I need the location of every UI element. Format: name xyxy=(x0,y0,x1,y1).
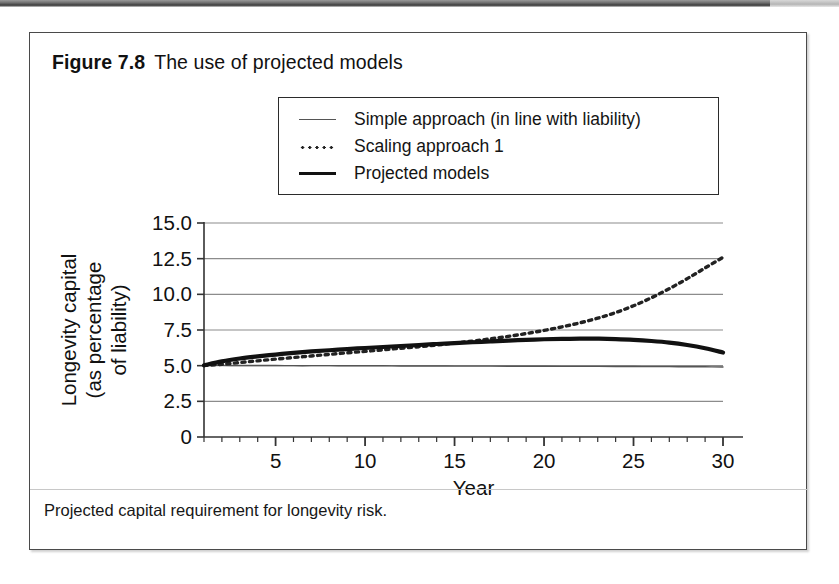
x-axis-tick-label: 10 xyxy=(354,449,377,472)
line-chart: 02.55.07.510.012.515.0 51015202530 YearL… xyxy=(30,33,808,551)
y-axis-tick-label: 12.5 xyxy=(152,247,192,270)
y-axis-title-line: (as percentage xyxy=(82,262,105,399)
scan-artifact-bar xyxy=(0,0,839,7)
data-series-layer xyxy=(204,257,723,367)
series-line-scaling-approach xyxy=(204,257,723,365)
figure-caption: Projected capital requirement for longev… xyxy=(44,501,387,520)
x-axis-tick-label: 25 xyxy=(622,449,645,472)
x-axis-tick-label: 30 xyxy=(712,449,735,472)
y-axis-tick-label: 7.5 xyxy=(164,318,193,341)
x-axis xyxy=(204,437,743,446)
x-axis-tick-labels: 51015202530 xyxy=(270,449,735,472)
y-axis-tick-label: 2.5 xyxy=(164,389,193,412)
figure-container: Figure 7.8The use of projected models Si… xyxy=(29,32,807,550)
y-axis xyxy=(197,222,204,437)
x-axis-title: Year xyxy=(453,476,495,499)
y-axis-tick-label: 15.0 xyxy=(152,211,192,234)
gridlines xyxy=(204,223,723,401)
series-line-projected-models xyxy=(204,339,723,366)
x-axis-tick-label: 15 xyxy=(443,449,466,472)
y-axis-tick-label: 5.0 xyxy=(164,354,193,377)
x-axis-tick-label: 5 xyxy=(270,449,281,472)
x-axis-tick-label: 20 xyxy=(533,449,556,472)
y-axis-title-line: of liability) xyxy=(107,284,130,375)
scan-artifact-bar-tail xyxy=(770,0,839,7)
y-axis-tick-labels: 02.55.07.510.012.515.0 xyxy=(152,211,192,448)
y-axis-title-line: Longevity capital xyxy=(57,254,80,407)
y-axis-tick-label: 10.0 xyxy=(152,282,192,305)
caption-divider xyxy=(30,489,808,490)
y-axis-tick-label: 0 xyxy=(181,425,192,448)
